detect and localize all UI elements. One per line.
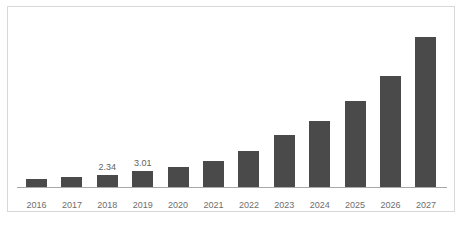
bar[interactable] bbox=[97, 175, 118, 188]
bar-group: 2020 bbox=[161, 33, 196, 187]
bar[interactable] bbox=[238, 151, 259, 187]
bar-group: 2016 bbox=[19, 33, 54, 187]
bar-group: 3.012019 bbox=[125, 33, 160, 187]
bar-column: 2022 bbox=[231, 33, 266, 187]
bar-column: 2025 bbox=[338, 33, 373, 187]
bar-value-label: 3.01 bbox=[119, 158, 166, 169]
bar[interactable] bbox=[380, 76, 401, 187]
bar-column: 2024 bbox=[302, 33, 337, 187]
bar-column: 3.012019 bbox=[125, 33, 160, 187]
chart-frame: 201620172.3420183.0120192020202120222023… bbox=[7, 6, 455, 212]
bar-column: 2027 bbox=[408, 33, 443, 187]
bar[interactable] bbox=[274, 135, 295, 187]
x-axis-line bbox=[17, 187, 447, 188]
bar[interactable] bbox=[345, 101, 366, 187]
bar-group: 2023 bbox=[267, 33, 302, 187]
bar-column: 2020 bbox=[161, 33, 196, 187]
bar-group: 2026 bbox=[373, 33, 408, 187]
bar[interactable] bbox=[61, 177, 82, 187]
bar-column: 2021 bbox=[196, 33, 231, 187]
bar-group: 2022 bbox=[231, 33, 266, 187]
bar[interactable] bbox=[168, 167, 189, 187]
bar-group: 2027 bbox=[408, 33, 443, 187]
x-axis-tick-label: 2027 bbox=[402, 200, 449, 211]
bar-column: 2023 bbox=[267, 33, 302, 187]
bar-column: 2026 bbox=[373, 33, 408, 187]
bar[interactable] bbox=[132, 171, 153, 187]
bar-group: 2021 bbox=[196, 33, 231, 187]
bar-group: 2025 bbox=[338, 33, 373, 187]
bar-column: 2016 bbox=[19, 33, 54, 187]
bar[interactable] bbox=[309, 121, 330, 187]
bar[interactable] bbox=[26, 179, 47, 187]
plot-area: 201620172.3420183.0120192020202120222023… bbox=[8, 7, 456, 213]
bar-group: 2024 bbox=[302, 33, 337, 187]
bar[interactable] bbox=[203, 161, 224, 187]
bar[interactable] bbox=[415, 37, 436, 187]
